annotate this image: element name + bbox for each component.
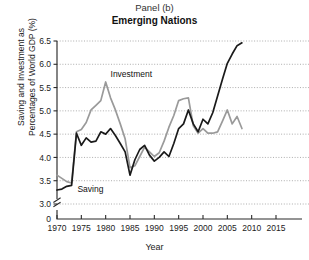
saving-line xyxy=(57,43,242,190)
chart-plot: 6.56.05.55.04.54.03.53.00 19701975198019… xyxy=(0,0,309,260)
x-tick-label: 1980 xyxy=(96,223,115,233)
investment-line xyxy=(57,82,242,183)
y-tick-label: 3.5 xyxy=(39,176,51,186)
y-axis-ticks: 6.56.05.55.04.54.03.53.00 xyxy=(39,36,57,224)
x-tick-label: 2010 xyxy=(242,223,261,233)
y-tick-label: 3.0 xyxy=(39,199,51,209)
chart-container: Panel (b) Emerging Nations Saving and In… xyxy=(0,0,309,260)
y-tick-label: 5.5 xyxy=(39,83,51,93)
x-tick-label: 2005 xyxy=(218,223,237,233)
y-tick-label: 6.0 xyxy=(39,59,51,69)
y-tick-label: 4.5 xyxy=(39,129,51,139)
gridlines xyxy=(57,41,309,204)
y-tick-label: 4.0 xyxy=(39,153,51,163)
x-tick-label: 1985 xyxy=(121,223,140,233)
x-tick-label: 1975 xyxy=(72,223,91,233)
series-annotations: InvestmentSaving xyxy=(77,69,152,194)
x-tick-label: 2000 xyxy=(194,223,213,233)
y-tick-label: 6.5 xyxy=(39,36,51,46)
x-tick-label: 2015 xyxy=(267,223,286,233)
axis-break-icon xyxy=(53,198,60,207)
x-axis-ticks: 1970197519801985199019952000200520102015 xyxy=(48,215,286,233)
y-tick-label: 5.0 xyxy=(39,106,51,116)
annotation-label: Saving xyxy=(77,184,103,194)
x-tick-label: 1970 xyxy=(48,223,67,233)
x-tick-label: 1990 xyxy=(145,223,164,233)
annotation-label: Investment xyxy=(111,69,153,79)
x-axis-line xyxy=(57,210,302,219)
x-tick-label: 1995 xyxy=(169,223,188,233)
